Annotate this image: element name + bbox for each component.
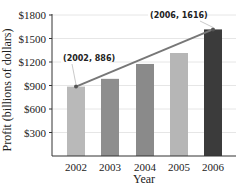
annotation-leader: [72, 64, 76, 85]
y-axis-label: Profit (billions of dollars): [0, 29, 14, 152]
annotation-2002: (2002, 886): [63, 54, 115, 63]
bar-2005: [170, 53, 188, 156]
bar-2003: [101, 79, 119, 156]
x-axis-label: Year: [133, 172, 155, 186]
y-tick-label: $1200: [19, 56, 47, 68]
x-tick-label: 2003: [99, 161, 122, 173]
y-tick-label: $1800: [19, 9, 47, 21]
annotation-leader: [200, 21, 213, 27]
point-marker: [211, 27, 215, 31]
chart: $300$600$900$1200$1500$1800 200220032004…: [0, 0, 241, 190]
x-tick-label: 2005: [168, 161, 191, 173]
y-tick-label: $600: [24, 103, 47, 115]
bar-2002: [67, 87, 85, 156]
bar-2006: [204, 29, 222, 156]
point-marker: [74, 85, 78, 89]
y-ticks: $300$600$900$1200$1500$1800: [19, 9, 53, 139]
bars: [67, 29, 222, 156]
bar-2004: [136, 64, 154, 156]
y-tick-label: $1500: [19, 33, 47, 45]
x-tick-label: 2006: [202, 161, 225, 173]
annotation-2006: (2006, 1616): [150, 11, 208, 20]
y-tick-label: $300: [24, 127, 47, 139]
y-tick-label: $900: [24, 80, 47, 92]
x-tick-label: 2002: [65, 161, 87, 173]
